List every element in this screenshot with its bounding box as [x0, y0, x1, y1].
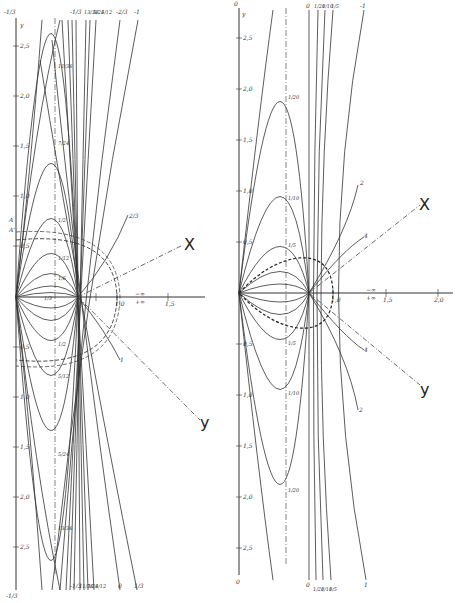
svg-text:1/5: 1/5 — [288, 340, 296, 346]
svg-text:0,5: 0,5 — [20, 242, 30, 249]
left-y-axis-label: y — [19, 21, 24, 29]
svg-text:1/6: 1/6 — [58, 275, 67, 281]
svg-text:1,0: 1,0 — [243, 391, 253, 398]
svg-text:1/20: 1/20 — [288, 487, 300, 493]
right-ray-y-label: y — [420, 380, 429, 399]
svg-text:y: y — [241, 10, 246, 18]
svg-text:5/12: 5/12 — [58, 373, 69, 379]
svg-text:2,0: 2,0 — [433, 296, 444, 303]
svg-text:13/36: 13/36 — [58, 525, 73, 531]
svg-text:0: 0 — [236, 578, 240, 585]
svg-text:1/3: 1/3 — [134, 582, 144, 589]
svg-text:−∞: −∞ — [366, 286, 376, 293]
svg-text:2,5: 2,5 — [242, 544, 253, 551]
svg-text:0,5: 0,5 — [243, 238, 253, 245]
svg-text:5/12: 5/12 — [101, 9, 112, 15]
mark-a: A — [8, 216, 14, 223]
svg-text:1,0: 1,0 — [243, 187, 253, 194]
svg-text:1,5: 1,5 — [20, 443, 30, 450]
svg-text:-1/3: -1/3 — [4, 8, 16, 15]
svg-text:1: 1 — [120, 356, 124, 363]
svg-text:1/12: 1/12 — [58, 255, 69, 261]
svg-text:2,5: 2,5 — [19, 543, 30, 550]
svg-text:1/5: 1/5 — [329, 586, 337, 592]
svg-text:-1: -1 — [360, 2, 366, 9]
svg-text:1,5: 1,5 — [243, 442, 253, 449]
left-ray-y — [78, 297, 200, 420]
right-ray-x-label: X — [419, 195, 430, 214]
svg-text:0,5: 0,5 — [243, 340, 253, 347]
svg-text:1/20: 1/20 — [288, 94, 300, 100]
svg-text:0: 0 — [118, 582, 122, 589]
svg-text:−∞: −∞ — [135, 290, 145, 297]
svg-text:1/5: 1/5 — [288, 242, 296, 248]
svg-text:2,0: 2,0 — [19, 92, 30, 99]
svg-text:1: 1 — [364, 581, 368, 588]
right-ray-y — [309, 293, 420, 385]
left-diagram-panel: y -1/3 -1/3 13/36 5/24 5/12 -2/3 -1 2,5 … — [0, 0, 228, 603]
svg-text:2,0: 2,0 — [19, 493, 30, 500]
right-diagram: 0 y 0 1/20 1/10 1/5 -1 2,5 2,0 1,5 1,0 0… — [228, 0, 456, 603]
svg-text:1/2: 1/2 — [58, 341, 66, 347]
svg-text:1/10: 1/10 — [288, 390, 300, 396]
right-curve-family — [239, 10, 366, 580]
svg-text:1,5: 1,5 — [20, 142, 30, 149]
svg-text:2: 2 — [358, 406, 363, 413]
svg-text:2,0: 2,0 — [242, 493, 253, 500]
svg-text:2,0: 2,0 — [242, 85, 253, 92]
left-ray-y-label: y — [200, 413, 209, 432]
svg-text:1,0: 1,0 — [115, 300, 125, 307]
svg-text:0: 0 — [234, 0, 238, 7]
svg-text:+∞: +∞ — [135, 298, 145, 305]
svg-text:+∞: +∞ — [366, 294, 376, 301]
svg-text:1/10: 1/10 — [288, 195, 300, 201]
svg-text:11/36: 11/36 — [58, 63, 73, 69]
svg-text:0,5: 0,5 — [20, 343, 30, 350]
svg-text:1,5: 1,5 — [243, 136, 253, 143]
svg-text:7/24: 7/24 — [58, 140, 69, 146]
svg-text:2,5: 2,5 — [242, 34, 253, 41]
svg-text:1/2: 1/2 — [58, 217, 66, 223]
svg-text:-1: -1 — [134, 8, 140, 15]
svg-text:1,0: 1,0 — [20, 192, 30, 199]
svg-text:4: 4 — [363, 346, 368, 353]
svg-text:-1/3: -1/3 — [70, 8, 82, 15]
right-ray-x — [309, 205, 420, 293]
svg-text:-2/3: -2/3 — [116, 8, 128, 15]
svg-text:2/3: 2/3 — [128, 212, 139, 219]
svg-text:1,0: 1,0 — [20, 393, 30, 400]
left-diagram: y -1/3 -1/3 13/36 5/24 5/12 -2/3 -1 2,5 … — [0, 0, 228, 603]
right-diagram-panel: 0 y 0 1/20 1/10 1/5 -1 2,5 2,0 1,5 1,0 0… — [228, 0, 456, 603]
svg-text:-1/3: -1/3 — [6, 592, 18, 599]
svg-text:3/12: 3/12 — [95, 583, 106, 589]
left-ray-x-label: X — [184, 235, 195, 254]
svg-text:1/3: 1/3 — [44, 295, 52, 301]
svg-text:1,0: 1,0 — [331, 296, 341, 303]
svg-text:1/5: 1/5 — [331, 3, 339, 9]
svg-text:5/24: 5/24 — [58, 451, 69, 457]
svg-text:1,5: 1,5 — [383, 296, 393, 303]
svg-text:1,5: 1,5 — [165, 300, 175, 307]
mark-a-prime: A' — [8, 226, 15, 233]
svg-text:0: 0 — [306, 581, 310, 588]
svg-text:0: 0 — [306, 2, 310, 9]
svg-text:2: 2 — [359, 179, 364, 186]
svg-text:4: 4 — [363, 232, 368, 239]
svg-text:2,5: 2,5 — [19, 42, 30, 49]
